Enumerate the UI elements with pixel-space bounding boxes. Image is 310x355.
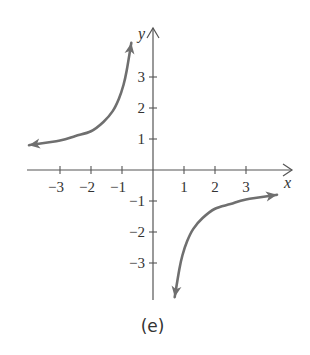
x-tick-label: −3 [48, 179, 64, 195]
y-tick-label: 3 [138, 69, 146, 85]
y-tick-label: 2 [138, 100, 146, 116]
x-tick-label: −1 [110, 179, 126, 195]
graph: −3−2−1123−3−2−1123 x y [0, 0, 310, 355]
figure-caption: (e) [0, 316, 305, 336]
y-tick-label: 1 [138, 131, 146, 147]
y-tick-label: −1 [129, 193, 145, 209]
y-tick-label: −2 [129, 224, 145, 240]
y-axis-label: y [136, 25, 146, 43]
axes [27, 28, 292, 300]
x-tick-label: 3 [242, 179, 250, 195]
x-tick-label: 2 [211, 179, 219, 195]
curve-branch-left [29, 43, 131, 145]
x-tick-label: −2 [79, 179, 95, 195]
y-tick-label: −3 [129, 255, 145, 271]
x-axis-label: x [283, 174, 291, 191]
curve-branch-right [175, 195, 277, 297]
x-tick-label: 1 [180, 179, 188, 195]
